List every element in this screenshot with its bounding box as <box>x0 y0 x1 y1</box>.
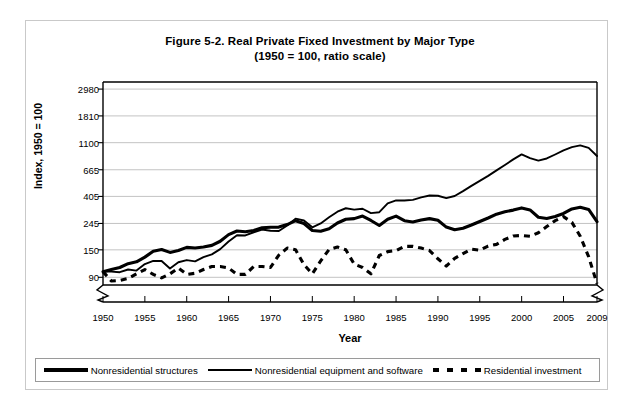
figure-root: Figure 5-2. Real Private Fixed Investmen… <box>0 0 635 408</box>
legend-item-label: Residential investment <box>484 365 581 376</box>
legend-item-1[interactable]: Nonresidential equipment and software <box>208 365 423 376</box>
series-line-0 <box>103 207 597 271</box>
plot-area <box>0 0 635 408</box>
gridlines <box>103 89 597 277</box>
chart-legend: Nonresidential structuresNonresidential … <box>35 358 600 382</box>
legend-line-swatch-icon <box>208 365 252 375</box>
data-series-layer <box>103 145 597 283</box>
legend-line-swatch-icon <box>433 365 481 375</box>
legend-line-swatch-icon <box>44 365 88 375</box>
legend-item-2[interactable]: Residential investment <box>433 365 581 376</box>
legend-item-0[interactable]: Nonresidential structures <box>44 365 198 376</box>
legend-item-label: Nonresidential equipment and software <box>255 365 423 376</box>
legend-item-label: Nonresidential structures <box>91 365 198 376</box>
axis-break-zigzag <box>97 285 603 302</box>
axis-frame <box>103 82 597 285</box>
